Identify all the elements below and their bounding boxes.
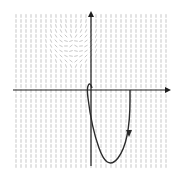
field-segment <box>85 29 87 32</box>
field-segment <box>70 34 71 37</box>
field-segment <box>74 56 78 57</box>
field-segment <box>55 50 57 53</box>
field-segment <box>95 49 96 52</box>
field-segment <box>76 29 77 33</box>
field-segment <box>65 64 66 67</box>
field-segment <box>81 24 82 28</box>
field-segment <box>85 35 87 38</box>
field-segment <box>64 41 67 42</box>
field-segment <box>69 40 72 41</box>
field-segment <box>46 39 47 43</box>
field-segment <box>70 64 71 67</box>
field-segment <box>55 29 56 32</box>
field-segment <box>81 64 82 67</box>
field-segment <box>65 60 67 63</box>
field-segment <box>50 39 52 42</box>
field-segment <box>59 50 62 52</box>
field-segment <box>85 59 87 62</box>
field-segment <box>95 34 96 37</box>
field-segment <box>69 50 72 51</box>
field-segment <box>64 55 67 57</box>
x-axis-arrow-icon <box>165 87 171 93</box>
plot-area <box>0 0 178 175</box>
field-segment <box>85 55 88 58</box>
field-segment <box>55 45 57 48</box>
field-segment <box>51 54 52 58</box>
field-segment <box>61 24 62 27</box>
field-segment <box>75 64 76 67</box>
slope-field-diagram <box>0 0 178 175</box>
field-segment <box>60 40 63 42</box>
field-segment <box>75 60 78 62</box>
solution-curve <box>87 84 130 163</box>
field-segment <box>51 29 52 33</box>
field-segment <box>86 19 87 23</box>
field-segment <box>79 51 83 52</box>
field-segment <box>50 34 51 37</box>
field-segment <box>84 45 87 47</box>
field-segment <box>50 44 52 47</box>
field-segment <box>79 40 82 41</box>
field-segment <box>85 50 88 52</box>
field-segment <box>80 60 82 63</box>
field-segment <box>80 35 83 38</box>
axes <box>13 11 171 166</box>
field-segment <box>96 29 97 33</box>
field-segment <box>70 60 73 62</box>
field-segment <box>55 34 57 37</box>
field-segment <box>50 49 51 52</box>
y-axis-arrow-icon <box>88 11 94 17</box>
field-segment <box>71 29 72 33</box>
field-segment <box>55 54 57 57</box>
field-segment <box>95 39 96 42</box>
field-segment <box>85 40 88 42</box>
field-segment <box>75 34 77 37</box>
field-segment <box>59 45 62 47</box>
field-segment <box>65 35 68 38</box>
field-segment <box>69 56 73 57</box>
field-segment <box>74 51 78 52</box>
field-segment <box>46 44 47 48</box>
field-segment <box>96 54 97 58</box>
field-segment <box>61 19 62 23</box>
field-segment <box>60 59 62 62</box>
field-segment <box>60 55 63 57</box>
field-segment <box>56 59 57 63</box>
field-segment <box>95 44 96 47</box>
field-segment <box>79 55 82 57</box>
field-segment <box>70 45 73 47</box>
field-segment <box>74 45 77 47</box>
field-segment <box>60 35 62 38</box>
field-segment <box>55 40 57 43</box>
field-segment <box>86 24 87 27</box>
field-segment <box>80 29 82 32</box>
field-segment <box>56 24 57 28</box>
field-segment <box>66 24 67 28</box>
field-segment <box>60 29 62 32</box>
field-segment <box>65 29 66 32</box>
